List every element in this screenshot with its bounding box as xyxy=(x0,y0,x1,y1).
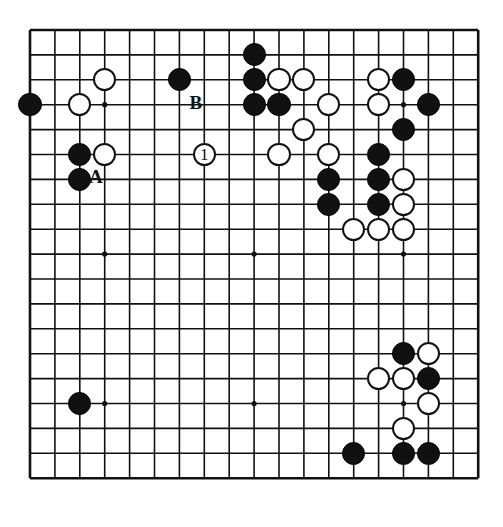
move-number-label: 1 xyxy=(195,145,214,164)
star-point xyxy=(401,252,406,257)
star-point xyxy=(401,401,406,406)
stone-white[interactable] xyxy=(267,143,290,166)
stone-white[interactable] xyxy=(392,193,415,216)
star-point xyxy=(252,401,257,406)
stone-black[interactable] xyxy=(367,193,390,216)
point-label-a: A xyxy=(87,167,103,186)
stone-white[interactable] xyxy=(392,417,415,440)
stone-white[interactable] xyxy=(417,392,440,415)
stone-black[interactable] xyxy=(243,93,266,116)
stone-black[interactable] xyxy=(417,367,440,390)
stone-white-marked[interactable]: 1 xyxy=(193,143,216,166)
stone-white[interactable] xyxy=(392,218,415,241)
stone-black[interactable] xyxy=(342,442,365,465)
stone-black[interactable] xyxy=(367,168,390,191)
stone-white[interactable] xyxy=(267,68,290,91)
stone-black[interactable] xyxy=(267,93,290,116)
go-diagram: 1 AB xyxy=(0,0,503,527)
stone-black[interactable] xyxy=(417,442,440,465)
stone-black[interactable] xyxy=(18,93,41,116)
stone-white[interactable] xyxy=(342,218,365,241)
stone-white[interactable] xyxy=(367,218,390,241)
go-board[interactable]: 1 AB xyxy=(22,22,486,498)
stone-black[interactable] xyxy=(243,43,266,66)
star-point xyxy=(401,102,406,107)
star-point xyxy=(102,252,107,257)
stone-black[interactable] xyxy=(243,68,266,91)
star-point xyxy=(252,252,257,257)
stone-white[interactable] xyxy=(392,168,415,191)
stone-black[interactable] xyxy=(392,442,415,465)
point-label-b: B xyxy=(186,93,202,112)
star-point xyxy=(102,401,107,406)
star-point xyxy=(102,102,107,107)
